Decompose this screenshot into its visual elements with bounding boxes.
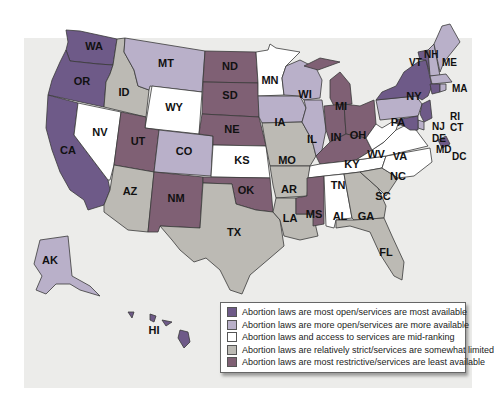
svg-text:KS: KS: [234, 154, 249, 166]
svg-text:MN: MN: [261, 74, 278, 86]
svg-text:IL: IL: [307, 133, 317, 145]
legend-item-more-open: Abortion laws are more open/services are…: [227, 319, 461, 332]
legend-label: Abortion laws are more open/services are…: [242, 320, 469, 330]
state-MA[interactable]: [430, 74, 452, 84]
legend: Abortion laws are most open/services are…: [220, 302, 466, 373]
svg-text:VT: VT: [409, 57, 422, 68]
svg-text:NE: NE: [224, 123, 239, 135]
svg-text:NV: NV: [92, 126, 108, 138]
svg-text:MD: MD: [436, 144, 452, 155]
svg-text:MO: MO: [278, 154, 296, 166]
svg-text:NM: NM: [167, 192, 184, 204]
svg-text:PA: PA: [391, 116, 406, 128]
svg-text:WI: WI: [298, 88, 311, 100]
legend-swatch: [227, 307, 237, 317]
legend-swatch: [227, 345, 237, 355]
svg-text:WV: WV: [367, 148, 385, 160]
svg-text:GA: GA: [358, 210, 375, 222]
svg-text:VA: VA: [393, 150, 408, 162]
svg-text:NJ: NJ: [432, 121, 445, 132]
state-FL[interactable]: [336, 218, 404, 280]
svg-text:NC: NC: [390, 170, 406, 182]
svg-text:ID: ID: [119, 86, 130, 98]
legend-label: Abortion laws are relatively strict/serv…: [242, 345, 494, 355]
svg-text:UT: UT: [131, 135, 146, 147]
svg-text:HI: HI: [149, 324, 160, 336]
svg-text:WA: WA: [85, 40, 103, 52]
legend-swatch: [227, 332, 237, 342]
svg-text:IN: IN: [331, 131, 342, 143]
legend-swatch: [227, 320, 237, 330]
legend-label: Abortion laws and access to services are…: [242, 332, 455, 342]
svg-text:TX: TX: [227, 226, 242, 238]
svg-text:IA: IA: [275, 116, 286, 128]
svg-text:CA: CA: [60, 144, 76, 156]
svg-text:DE: DE: [432, 133, 446, 144]
svg-text:FL: FL: [379, 246, 393, 258]
svg-text:LA: LA: [283, 212, 298, 224]
state-CT[interactable]: [430, 84, 440, 94]
svg-text:OH: OH: [350, 129, 367, 141]
svg-text:AR: AR: [281, 183, 297, 195]
svg-text:NH: NH: [424, 49, 438, 60]
legend-item-most-restrictive: Abortion laws are most restrictive/servi…: [227, 356, 461, 369]
svg-text:AK: AK: [42, 254, 58, 266]
svg-text:MI: MI: [335, 100, 347, 112]
legend-label: Abortion laws are most restrictive/servi…: [242, 357, 485, 367]
legend-label: Abortion laws are most open/services are…: [242, 307, 467, 317]
svg-text:ND: ND: [222, 60, 238, 72]
svg-text:NY: NY: [406, 90, 422, 102]
legend-item-mid: Abortion laws and access to services are…: [227, 331, 461, 344]
svg-text:MS: MS: [306, 208, 323, 220]
svg-text:MT: MT: [158, 57, 174, 69]
state-AK[interactable]: [34, 236, 100, 296]
state-DE[interactable]: [418, 120, 424, 130]
svg-text:ME: ME: [442, 57, 457, 68]
svg-text:AL: AL: [333, 210, 348, 222]
svg-text:OR: OR: [74, 75, 91, 87]
svg-text:AZ: AZ: [123, 185, 138, 197]
svg-text:CT: CT: [450, 122, 463, 133]
svg-text:SD: SD: [222, 89, 237, 101]
svg-text:OK: OK: [238, 184, 255, 196]
svg-text:CO: CO: [176, 145, 193, 157]
state-RI[interactable]: [440, 84, 446, 92]
svg-text:TN: TN: [331, 179, 346, 191]
svg-text:KY: KY: [344, 158, 360, 170]
svg-text:DC: DC: [452, 151, 466, 162]
svg-text:WY: WY: [165, 101, 183, 113]
svg-text:RI: RI: [450, 111, 460, 122]
state-NY[interactable]: [376, 60, 432, 100]
legend-item-most-open: Abortion laws are most open/services are…: [227, 306, 461, 319]
legend-swatch: [227, 357, 237, 367]
legend-item-strict: Abortion laws are relatively strict/serv…: [227, 344, 461, 357]
svg-text:SC: SC: [375, 190, 390, 202]
svg-text:MA: MA: [452, 83, 468, 94]
